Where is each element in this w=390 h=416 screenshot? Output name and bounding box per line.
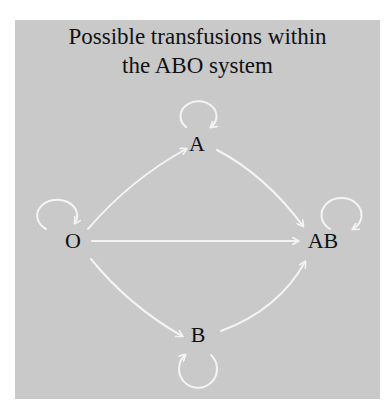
self-loop-ab [322,198,362,229]
edge-a-to-ab [217,150,303,226]
node-o: O [65,230,81,252]
node-ab: AB [308,230,339,252]
edge-b-to-ab [221,262,305,331]
node-a: A [189,133,205,155]
self-loop-o [37,200,77,229]
self-loop-a [181,101,217,127]
node-b: B [191,324,206,346]
transfusion-graph [0,0,390,416]
edge-o-to-a [88,149,186,229]
self-loop-b [179,355,217,388]
edge-o-to-b [91,259,182,336]
